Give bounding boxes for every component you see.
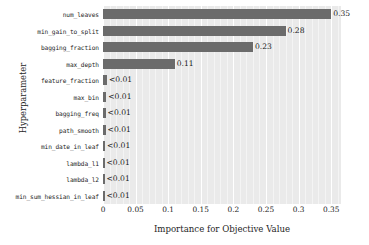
bar[interactable]: [103, 125, 106, 135]
bar-row[interactable]: <0.01: [103, 174, 341, 184]
bar[interactable]: [103, 141, 105, 151]
bar-row[interactable]: <0.01: [103, 108, 341, 118]
x-axis-tick-label: 0.1: [162, 205, 174, 214]
bar-value-label: <0.01: [107, 192, 130, 200]
y-axis-tick-label: min_sum_hessian_in_leaf: [16, 192, 99, 199]
y-axis-tick-label: lambda_l2: [66, 176, 99, 183]
bar[interactable]: [103, 59, 175, 69]
bar-series: 0.350.280.230.11<0.01<0.01<0.01<0.01<0.0…: [103, 6, 341, 204]
bar[interactable]: [103, 174, 105, 184]
y-axis-tick-label: min_gain_to_split: [37, 27, 99, 34]
x-axis-tick-label: 0.05: [127, 205, 143, 214]
y-axis-tick-labels: num_leavesmin_gain_to_splitbagging_fract…: [0, 6, 101, 204]
x-axis-tick-label: 0.25: [258, 205, 274, 214]
bar-value-label: 0.23: [255, 43, 272, 51]
bar-row[interactable]: <0.01: [103, 75, 341, 85]
bar-value-label: <0.01: [108, 126, 131, 134]
x-axis-title: Importance for Objective Value: [103, 224, 341, 234]
bar-row[interactable]: 0.35: [103, 9, 341, 19]
x-axis-tick-label: 0.3: [293, 205, 305, 214]
bar-row[interactable]: <0.01: [103, 158, 341, 168]
y-axis-tick-label: bagging_freq: [55, 110, 99, 117]
x-axis-tick-label: 0.35: [323, 205, 339, 214]
bar[interactable]: [103, 26, 286, 36]
bar-row[interactable]: <0.01: [103, 141, 341, 151]
y-axis-tick-label: max_bin: [74, 93, 99, 100]
y-axis-tick-label: max_depth: [66, 60, 99, 67]
bar[interactable]: [103, 42, 253, 52]
bar-value-label: 0.35: [333, 10, 350, 18]
bar-value-label: 0.11: [177, 60, 194, 68]
x-axis-tick-labels: 00.050.10.150.20.250.30.35: [103, 205, 341, 219]
bar-row[interactable]: 0.23: [103, 42, 341, 52]
bar[interactable]: [103, 108, 106, 118]
bar[interactable]: [103, 158, 105, 168]
y-axis-tick-label: path_smooth: [59, 126, 99, 133]
bar-value-label: <0.01: [108, 93, 131, 101]
plot-area: 0.350.280.230.11<0.01<0.01<0.01<0.01<0.0…: [103, 6, 341, 204]
bar-row[interactable]: 0.28: [103, 26, 341, 36]
bar[interactable]: [103, 9, 331, 19]
y-axis-tick-label: lambda_l1: [66, 159, 99, 166]
bar-value-label: 0.28: [288, 27, 305, 35]
bar-row[interactable]: <0.01: [103, 191, 341, 201]
y-axis-tick-label: num_leaves: [63, 11, 99, 18]
x-axis-tick-label: 0.2: [228, 205, 240, 214]
x-axis-tick-label: 0: [101, 205, 106, 214]
bar[interactable]: [103, 191, 105, 201]
x-axis-tick-label: 0.15: [193, 205, 209, 214]
bar-row[interactable]: 0.11: [103, 59, 341, 69]
hyperparameter-importance-chart: Hyperparameter num_leavesmin_gain_to_spl…: [0, 0, 369, 245]
y-axis-tick-label: feature_fraction: [41, 77, 99, 84]
bar[interactable]: [103, 75, 107, 85]
bar-value-label: <0.01: [107, 142, 130, 150]
y-axis-tick-label: min_date_in_leaf: [41, 143, 99, 150]
y-axis-tick-label: bagging_fraction: [41, 44, 99, 51]
bar-value-label: <0.01: [108, 109, 131, 117]
bar-value-label: <0.01: [107, 159, 130, 167]
bar-value-label: <0.01: [109, 76, 132, 84]
bar-value-label: <0.01: [107, 175, 130, 183]
bar[interactable]: [103, 92, 106, 102]
bar-row[interactable]: <0.01: [103, 92, 341, 102]
bar-row[interactable]: <0.01: [103, 125, 341, 135]
